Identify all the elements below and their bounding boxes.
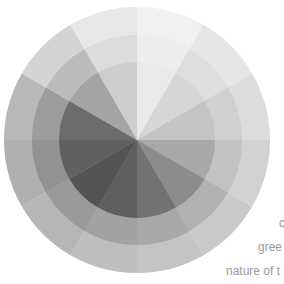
caption-line-1: c: [279, 216, 284, 230]
caption-line-3: nature of t: [226, 264, 280, 278]
caption-line-2: gree: [258, 240, 282, 254]
grayscale-color-wheel: [0, 0, 284, 284]
